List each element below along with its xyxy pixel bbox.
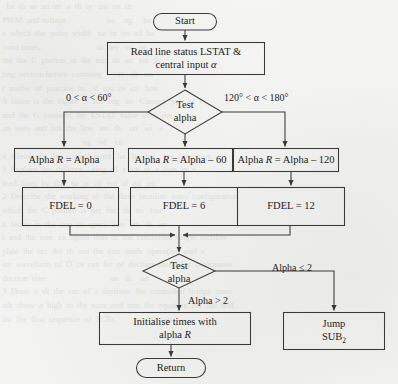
initialise-box-shape xyxy=(100,313,251,345)
edge-test1-left-branch xyxy=(64,112,148,147)
fdel-right-box-shape xyxy=(238,188,345,226)
edge-fdelright-to-merge xyxy=(183,226,290,236)
alpha-r-left-box-shape xyxy=(15,149,114,172)
edge-test1-right-branch xyxy=(222,112,285,147)
test-alpha-1-diamond-shape xyxy=(148,90,222,134)
read-input-box-shape xyxy=(108,43,265,75)
test-alpha-2-diamond-shape xyxy=(143,254,215,288)
return-terminator-shape xyxy=(137,359,206,378)
alpha-r-right-box-shape xyxy=(234,149,339,172)
flowchart-connectors-and-shapes xyxy=(0,0,398,384)
alpha-r-mid-box-shape xyxy=(129,149,233,172)
edge-test2-to-jumpsub xyxy=(215,271,334,311)
fdel-left-box-shape xyxy=(23,188,119,226)
jump-sub-box-shape xyxy=(284,313,385,350)
flowchart-figure: ba th an an on a th ty tro on in PWM and… xyxy=(0,0,398,384)
start-terminator-shape xyxy=(154,14,217,31)
fdel-mid-box-shape xyxy=(131,188,238,226)
edge-fdelleft-to-merge xyxy=(70,226,175,236)
